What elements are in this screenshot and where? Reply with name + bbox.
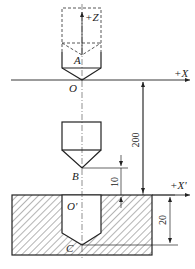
tool-above-workpiece xyxy=(62,122,101,168)
point-o-label: O xyxy=(69,82,77,94)
diagram-canvas: +Z A O +X B +X' O' C 200 10 20 xyxy=(0,0,195,269)
dimension-10-label: 10 xyxy=(109,177,120,187)
point-a-label: A xyxy=(73,54,81,66)
x-axis-label: +X xyxy=(174,67,189,79)
point-o-prime-label: O' xyxy=(67,200,78,212)
z-axis-label: +Z xyxy=(85,11,99,23)
dimension-20-label: 20 xyxy=(157,215,168,225)
point-c-label: C xyxy=(66,242,74,254)
x-prime-axis-label: +X' xyxy=(170,179,187,191)
workpiece xyxy=(12,195,178,255)
dimension-200-label: 200 xyxy=(130,133,141,148)
tool-at-origin xyxy=(62,52,101,80)
point-b-label: B xyxy=(72,170,79,182)
